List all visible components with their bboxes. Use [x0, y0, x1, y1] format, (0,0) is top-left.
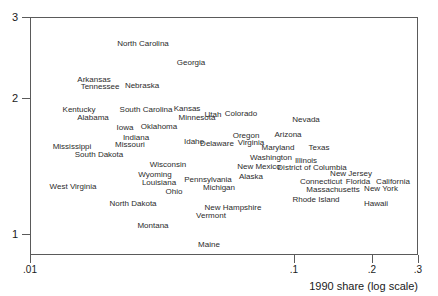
x-tick-mark: [294, 255, 295, 263]
data-point-label: Washington: [250, 153, 292, 162]
x-tick-mark: [372, 255, 373, 263]
data-point-label: Alabama: [77, 113, 109, 122]
data-point-label: Georgia: [177, 58, 205, 67]
data-point-label: Minnesota: [179, 113, 216, 122]
y-tick-mark: [22, 98, 30, 99]
y-tick-label: 1: [0, 228, 18, 240]
x-tick-label: .3: [414, 264, 422, 275]
x-axis-title: 1990 share (log scale): [309, 280, 418, 292]
x-tick-label: .01: [23, 264, 37, 275]
y-tick-mark: [22, 17, 30, 18]
x-tick-label: .2: [368, 264, 376, 275]
data-point-label: Missouri: [115, 140, 145, 149]
data-point-label: Arizona: [274, 130, 301, 139]
x-tick-label: .1: [290, 264, 298, 275]
data-point-label: Alaska: [239, 172, 263, 181]
data-point-label: Hawaii: [364, 199, 388, 208]
data-point-label: South Carolina: [120, 105, 173, 114]
data-point-label: New York: [364, 184, 398, 193]
data-point-label: Virginia: [238, 138, 265, 147]
data-point-label: Wisconsin: [150, 160, 186, 169]
scatter-chart-figure: 123 .01.1.2.3 North CarolinaGeorgiaArkan…: [0, 0, 438, 296]
data-point-label: Ohio: [166, 187, 183, 196]
data-point-label: North Dakota: [109, 199, 156, 208]
y-tick-label: 2: [0, 92, 18, 104]
y-tick-mark: [22, 234, 30, 235]
data-point-label: West Virginia: [50, 182, 97, 191]
data-point-label: Kansas: [174, 104, 201, 113]
data-point-label: Maine: [198, 240, 220, 249]
data-point-label: Montana: [137, 221, 168, 230]
data-point-label: Tennessee: [81, 82, 120, 91]
data-point-label: Nevada: [292, 115, 320, 124]
data-point-label: Texas: [309, 143, 330, 152]
data-point-label: Rhode Island: [292, 195, 339, 204]
data-point-label: Maryland: [262, 143, 295, 152]
data-point-label: South Dakota: [75, 150, 123, 159]
data-point-label: Vermont: [196, 211, 226, 220]
data-point-label: Louisiana: [142, 178, 176, 187]
data-point-label: Delaware: [200, 139, 234, 148]
x-tick-mark: [30, 255, 31, 263]
data-point-label: Michigan: [203, 183, 235, 192]
data-point-label: North Carolina: [117, 39, 169, 48]
data-point-label: Massachusetts: [306, 185, 359, 194]
y-tick-label: 3: [0, 11, 18, 23]
plot-area: North CarolinaGeorgiaArkansasTennesseeNe…: [30, 17, 418, 255]
data-point-label: New Mexico: [237, 162, 281, 171]
data-point-label: Colorado: [225, 109, 257, 118]
data-point-label: Iowa: [117, 123, 134, 132]
data-point-label: Nebraska: [125, 81, 159, 90]
data-point-label: Oklahoma: [141, 122, 177, 131]
x-tick-mark: [418, 255, 419, 263]
